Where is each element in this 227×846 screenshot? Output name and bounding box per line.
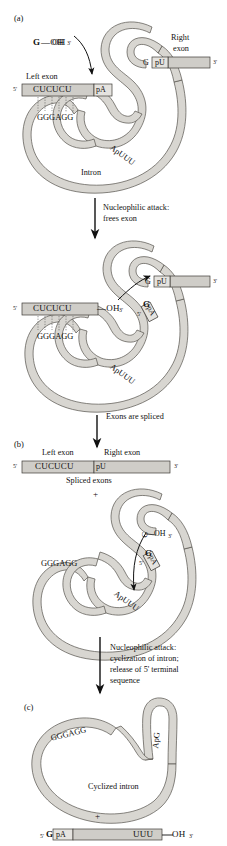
panel-b-nucleophile-bond: —OH <box>146 530 166 538</box>
panel-a-attack-arrow <box>74 36 92 74</box>
intermediate-intron-ribbon <box>25 241 188 412</box>
panel-b-right-exon-label: Right exon <box>104 449 140 457</box>
transition-2-line-1: Exons are spliced <box>106 412 164 423</box>
panel-c-tail-g: G <box>46 830 53 839</box>
panel-b-five-prime: 5' <box>13 464 17 470</box>
panel-b-intron-ribbon <box>33 489 196 660</box>
intermediate-guanosine: G <box>145 278 151 286</box>
panel-a-five-prime: 5' <box>13 87 17 93</box>
panel-a-three-prime: 3' <box>213 60 217 66</box>
panel-a-intron-ribbon <box>23 22 186 193</box>
panel-c-tail-five-prime: 5' <box>40 834 44 840</box>
intermediate-free-exon-seq: CUCUCU <box>33 304 72 313</box>
panel-c-plus: + <box>95 812 100 821</box>
intermediate-pa-prime: 5' <box>137 312 141 318</box>
panel-a-nucleophile-base: G <box>33 38 40 47</box>
intermediate-splice-site-3: pU <box>157 278 167 286</box>
intermediate-five-prime: 5' <box>13 306 17 312</box>
panel-c-tail-three-prime: 3' <box>189 834 193 840</box>
intermediate-free-exon-prime: 3' <box>119 308 123 314</box>
panel-b-tag: (b) <box>14 440 24 449</box>
intermediate-free-exon-bond: —OH <box>97 304 120 313</box>
transition-3-line-2: cyclization of intron; <box>110 654 179 665</box>
panel-a-intron-pair-seq: GGGAGG <box>37 114 73 122</box>
panel-b-intron-pair-seq: GGGAGG <box>41 560 77 568</box>
transition-1-line-2: frees exon <box>103 214 137 225</box>
panel-b-plus: + <box>93 490 98 499</box>
panel-a-splice-site-3: pU <box>155 59 165 67</box>
panel-c-released-fragment <box>53 829 173 840</box>
panel-b-spliced-seq-left: CUCUCU <box>35 462 74 471</box>
panel-c-tail-uuu: UUU <box>133 830 153 839</box>
splicing-figure: (a) G —OH —OH OH 3' Left exon 5' CUCUCU … <box>0 0 227 846</box>
panel-a-nucleophile-prime: 3' <box>67 41 71 47</box>
panel-b-spliced-caption: Spliced exons <box>66 477 112 485</box>
panel-b-three-prime: 3' <box>174 464 178 470</box>
panel-b-left-exon-label: Left exon <box>42 449 74 457</box>
panel-a-intron-label: Intron <box>81 169 101 177</box>
panel-a-splice-site-5: pA <box>96 86 106 94</box>
transition-3-line-1: Nucleophilic attack: <box>110 643 176 654</box>
panel-b-spliced-seq-right: pU <box>96 463 106 471</box>
panel-a-right-exon-label-1: Right <box>171 34 189 42</box>
panel-c-tail-bond: OH <box>172 830 185 839</box>
panel-a-oh-text: OH <box>52 38 65 47</box>
intermediate-three-prime: 3' <box>213 279 217 285</box>
intermediate-intron-pair-seq: GGGAGG <box>37 333 73 341</box>
panel-b-pa-prime: 5' <box>139 561 143 567</box>
panel-c-tail-pa: pA <box>56 831 66 839</box>
panel-a-right-exon-label-2: exon <box>173 45 189 53</box>
panel-c-cyclized-label: Cyclized intron <box>88 783 139 791</box>
panel-c-tag: (c) <box>24 703 33 712</box>
panel-a-left-exon-label: Left exon <box>26 73 58 81</box>
figure-artwork <box>0 0 227 846</box>
panel-b-nucleophile-prime: 3' <box>168 534 172 540</box>
transition-1-line-1: Nucleophilic attack: <box>103 203 169 214</box>
transition-3-line-3: release of 5' terminal <box>110 665 179 676</box>
panel-c-branch-seq: ApG <box>152 732 162 749</box>
transition-3-line-4: sequence <box>110 676 140 687</box>
panel-c-cyclized-ribbon <box>32 698 177 823</box>
panel-a-guanosine: G <box>143 59 149 67</box>
panel-a-left-exon-seq: CUCUCU <box>33 85 72 94</box>
panel-a-tag: (a) <box>14 14 23 23</box>
